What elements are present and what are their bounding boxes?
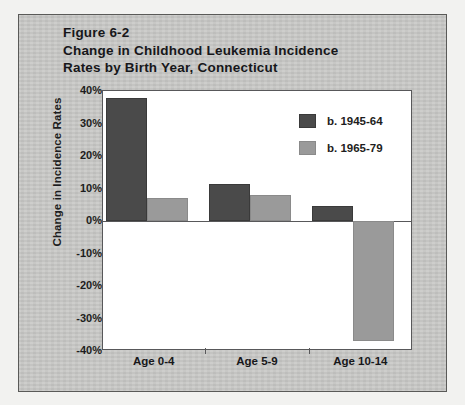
figure-title-line-1: Figure 6-2 xyxy=(63,24,433,42)
legend-swatch-icon xyxy=(299,141,316,155)
y-tick-mark xyxy=(97,350,102,351)
figure-panel: Figure 6-2 Change in Childhood Leukemia … xyxy=(18,14,447,392)
figure-title: Figure 6-2 Change in Childhood Leukemia … xyxy=(63,24,433,77)
bar-age-5-9-b-1945-64 xyxy=(209,184,250,221)
y-axis-tick-labels: 40%30%20%10%0%-10%-20%-30%-40% xyxy=(58,90,102,350)
figure-title-line-2: Change in Childhood Leukemia Incidence xyxy=(63,42,433,60)
bar-age-0-4-b-1965-79 xyxy=(147,198,188,221)
legend-item: b. 1965-79 xyxy=(299,141,419,155)
legend-swatch-icon xyxy=(299,114,316,128)
legend-item: b. 1945-64 xyxy=(299,114,419,128)
bar-age-10-14-b-1945-64 xyxy=(312,206,353,221)
chart-legend: b. 1945-64b. 1965-79 xyxy=(299,114,419,168)
figure-title-line-3: Rates by Birth Year, Connecticut xyxy=(63,59,433,77)
bar-age-10-14-b-1965-79 xyxy=(353,221,394,341)
x-axis-separator xyxy=(309,348,310,354)
x-axis-labels: Age 0-4Age 5-9Age 10-14 xyxy=(102,355,412,375)
bar-age-0-4-b-1945-64 xyxy=(106,98,147,222)
x-axis-label: Age 0-4 xyxy=(133,355,175,367)
bar-age-5-9-b-1965-79 xyxy=(250,195,291,221)
x-axis-label: Age 10-14 xyxy=(333,355,387,367)
legend-label: b. 1945-64 xyxy=(327,115,383,127)
legend-label: b. 1965-79 xyxy=(327,142,383,154)
x-axis-separator xyxy=(205,348,206,354)
x-axis-label: Age 5-9 xyxy=(236,355,278,367)
